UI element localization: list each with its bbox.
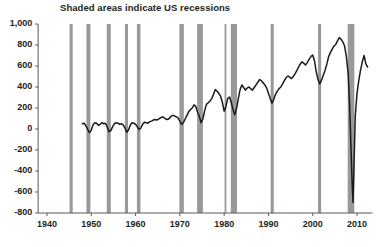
recession-bands-group	[70, 24, 355, 213]
recession-band	[107, 24, 111, 213]
y-axis-tick-label: -200	[0, 144, 32, 154]
x-axis-tick-label: 2010	[337, 219, 377, 229]
y-axis-tick-label: 400	[0, 81, 32, 91]
y-axis-tick-label: -400	[0, 165, 32, 175]
recession-band	[318, 24, 321, 213]
x-axis-tick-label: 2000	[293, 219, 333, 229]
x-axis-tick-label: 1940	[27, 219, 67, 229]
x-axis-tick-label: 1990	[248, 219, 288, 229]
y-axis-tick-label: 800	[0, 39, 32, 49]
y-axis-tick-label: 200	[0, 102, 32, 112]
recession-band	[137, 24, 141, 213]
recession-band	[179, 24, 183, 213]
recession-band	[231, 24, 237, 213]
recession-band	[86, 24, 90, 213]
y-axis-tick-label: 600	[0, 60, 32, 70]
axes-group	[35, 24, 372, 216]
recession-chart: Shaded areas indicate US recessions 1,00…	[0, 0, 386, 247]
recession-band	[225, 24, 227, 213]
recession-band	[125, 24, 128, 213]
x-axis-tick-label: 1980	[204, 219, 244, 229]
x-axis-tick-label: 1950	[71, 219, 111, 229]
y-axis-tick-label: 1,000	[0, 18, 32, 28]
y-axis-tick-label: -600	[0, 186, 32, 196]
recession-band	[70, 24, 73, 213]
x-axis-tick-label: 1960	[116, 219, 156, 229]
recession-band	[271, 24, 274, 213]
y-axis-tick-label: -800	[0, 207, 32, 217]
y-axis-tick-label: 0	[0, 123, 32, 133]
chart-plot-area	[0, 0, 386, 247]
x-axis-tick-label: 1970	[160, 219, 200, 229]
